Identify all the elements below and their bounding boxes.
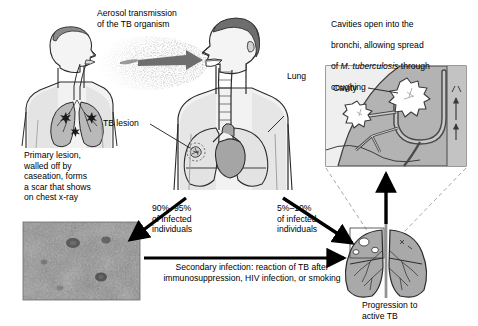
primary-lesion-caption: Primary lesion, walled off by caseation,…	[24, 150, 134, 203]
cavities-caption-line1: Cavities open into the	[331, 19, 414, 29]
label-percent-high: 90%–95% of infected individuals	[152, 203, 224, 235]
cavities-caption-line2: bronchi, allowing spread	[331, 40, 424, 50]
cavities-caption-line3-post: through	[398, 61, 430, 71]
chest-xray-photo	[23, 222, 140, 300]
tb-pathogenesis-figure: Aerosol transmission of the TB organism …	[0, 0, 478, 326]
label-percent-low: 5%–10% of infected individuals	[277, 203, 349, 235]
label-cavity: Cavity	[333, 83, 357, 94]
active-tb-lungs-illustration	[345, 224, 426, 298]
species-name-m-tuberculosis: M. tuberculosis	[341, 61, 399, 71]
label-progression-active-tb: Progression to active TB	[362, 300, 452, 321]
label-tb-lesion: TB lesion	[103, 118, 139, 129]
cavities-caption: Cavities open into the bronchi, allowing…	[331, 8, 473, 93]
cavities-caption-line3-pre: of	[331, 61, 341, 71]
aerosol-transmission-arrow	[88, 36, 208, 90]
secondary-infection-caption: Secondary infection: reaction of TB afte…	[157, 262, 347, 283]
aerosol-transmission-caption: Aerosol transmission of the TB organism	[97, 8, 217, 29]
label-lung: Lung	[287, 71, 306, 82]
